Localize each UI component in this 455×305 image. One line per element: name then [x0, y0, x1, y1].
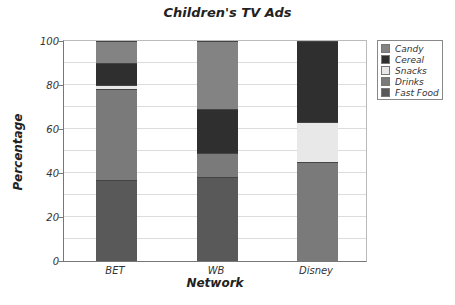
legend-label: Candy [395, 44, 424, 54]
legend-item: Fast Food [381, 87, 439, 98]
legend-swatch [381, 44, 390, 53]
legend-swatch [381, 55, 390, 64]
chart-title: Children's TV Ads [0, 5, 455, 20]
legend-item: Drinks [381, 76, 439, 87]
legend-label: Snacks [395, 66, 427, 76]
legend-label: Drinks [395, 77, 424, 87]
x-tick-label: Disney [286, 265, 346, 276]
x-tick-label: WB [186, 265, 246, 276]
bar-bet [96, 41, 137, 261]
bar-segment-candy [96, 41, 137, 63]
bar-segment-candy [197, 41, 238, 109]
y-axis-label: Percentage [11, 112, 25, 192]
bar-segment-cereal [197, 109, 238, 153]
bar-segment-cereal [297, 41, 338, 122]
bar-wb [197, 41, 238, 261]
bar-segment-drinks [197, 153, 238, 177]
legend-swatch [381, 88, 390, 97]
legend-item: Candy [381, 43, 439, 54]
bar-segment-drinks [297, 162, 338, 261]
bar-segment-fast-food [96, 180, 137, 261]
legend-swatch [381, 77, 390, 86]
legend: CandyCerealSnacksDrinksFast Food [377, 40, 443, 100]
legend-label: Fast Food [395, 88, 439, 98]
bar-segment-cereal [96, 63, 137, 85]
y-tick-label: 100 [40, 36, 59, 47]
legend-item: Cereal [381, 54, 439, 65]
legend-swatch [381, 66, 390, 75]
bar-segment-snacks [297, 122, 338, 162]
plot-area [63, 40, 367, 262]
x-axis-label: Network [0, 276, 430, 290]
x-tick-label: BET [85, 265, 145, 276]
legend-label: Cereal [395, 55, 424, 65]
bar-disney [297, 41, 338, 261]
bar-segment-fast-food [197, 177, 238, 261]
bar-segment-drinks [96, 89, 137, 179]
legend-item: Snacks [381, 65, 439, 76]
